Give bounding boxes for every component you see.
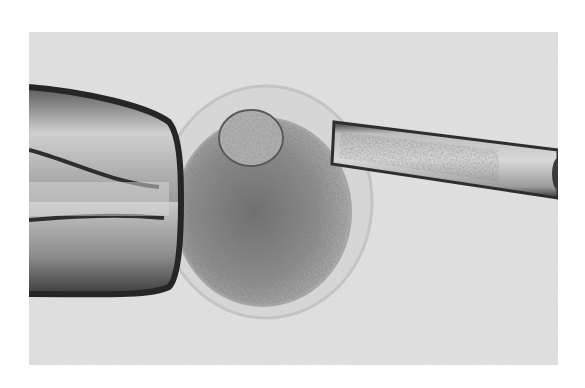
polar-body [219,110,283,166]
micrograph-photo [29,32,558,365]
holding-pipette [29,87,181,294]
